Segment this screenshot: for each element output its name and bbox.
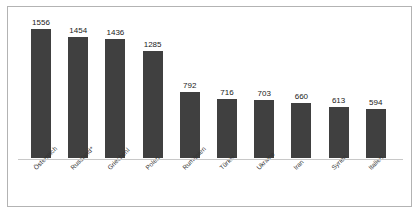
bar-group: 703 [254,100,274,158]
bar-value-label: 1285 [134,40,172,49]
bar[interactable] [217,99,237,158]
bar-group: 660 [291,103,311,158]
bar-value-label: 792 [171,81,209,90]
bar-value-label: 703 [245,89,283,98]
bar-value-label: 716 [208,88,246,97]
plot-area: 1556Österreich1454Russland*1436Griechenl… [8,7,411,206]
bar[interactable] [105,39,125,158]
bar[interactable] [254,100,274,158]
bar-group: 1436 [105,39,125,158]
x-axis-line [18,159,403,160]
bar-value-label: 1454 [59,26,97,35]
bar[interactable] [366,109,386,158]
bar-value-label: 660 [282,92,320,101]
bar-value-label: 594 [357,98,395,107]
bar-group: 716 [217,99,237,158]
bar-group: 594 [366,109,386,158]
bar-value-label: 613 [320,96,358,105]
bar-group: 613 [329,107,349,158]
bar-group: 1556 [31,29,51,158]
bar[interactable] [291,103,311,158]
bar[interactable] [143,51,163,158]
bar[interactable] [180,92,200,158]
bar-group: 1454 [68,37,88,158]
category-label: Iran [292,158,305,171]
bar-value-label: 1436 [96,28,134,37]
bar[interactable] [68,37,88,158]
bar-chart: 1556Österreich1454Russland*1436Griechenl… [0,0,418,213]
bar-value-label: 1556 [22,18,60,27]
bar-group: 1285 [143,51,163,158]
bar[interactable] [329,107,349,158]
bar-group: 792 [180,92,200,158]
chart-frame: 1556Österreich1454Russland*1436Griechenl… [7,6,412,207]
bar[interactable] [31,29,51,158]
